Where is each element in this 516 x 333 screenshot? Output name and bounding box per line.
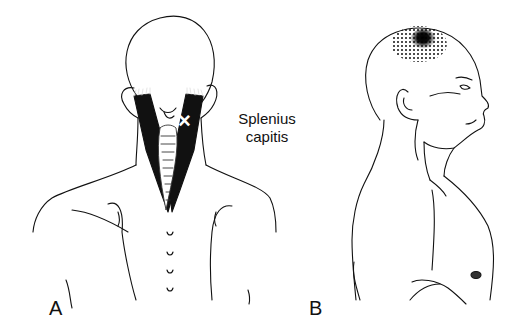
muscle-name-line1: Splenius (232, 110, 302, 128)
trigger-point-marker: × (178, 110, 191, 132)
lateral-figure (352, 28, 494, 304)
panel-label-a: A (49, 297, 62, 320)
anatomy-figure: × Splenius capitis A B (0, 0, 516, 333)
panel-label-b: B (309, 297, 322, 320)
illustration-svg (0, 0, 516, 333)
thoracic-spine-marks (167, 232, 173, 291)
muscle-name-label: Splenius capitis (232, 110, 302, 146)
referred-pain-pattern (391, 26, 447, 62)
muscle-name-line2: capitis (232, 128, 302, 146)
